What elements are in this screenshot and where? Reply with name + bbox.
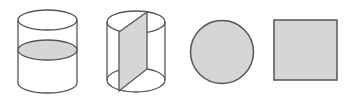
- cylinder-horizontal-section: [18, 10, 77, 93]
- cylinder1-top-ellipse: [18, 10, 77, 30]
- cylinder-vertical-section: [107, 11, 165, 92]
- cylinder2-section-rectangle: [119, 12, 147, 91]
- diagram: Solids of revolution cross-sections: cyl…: [0, 0, 355, 103]
- cylinder1-section-ellipse: [18, 40, 77, 60]
- square-shape: [274, 20, 337, 80]
- circle-shape: [191, 21, 254, 84]
- diagram-canvas: [0, 0, 355, 103]
- cylinder1-bottom-arc: [18, 83, 77, 93]
